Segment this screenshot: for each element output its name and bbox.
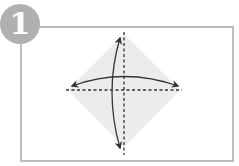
step-number-badge: 1 — [0, 4, 40, 44]
